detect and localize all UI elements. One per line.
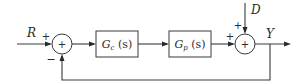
summing-junction-1-center-sign: + bbox=[58, 39, 66, 50]
feedback-arrowhead bbox=[60, 54, 65, 61]
summing-junction-1-reference-sign: + bbox=[42, 31, 50, 42]
summing-junction-2-plant-sign: + bbox=[226, 31, 234, 42]
output-label: Y bbox=[266, 27, 275, 41]
controller-block: Gc (s) bbox=[96, 31, 138, 57]
plant-output-arrowhead bbox=[228, 42, 235, 47]
reference-label: R bbox=[26, 26, 36, 40]
summing-junction-1-feedback-sign: − bbox=[46, 53, 55, 66]
block-diagram: R + + − Gc (s) Gp (s) + + + D Y bbox=[0, 0, 306, 84]
output-arrowhead bbox=[284, 42, 291, 47]
disturbance-label: D bbox=[250, 3, 261, 17]
reference-arrowhead bbox=[45, 42, 52, 47]
plant-block: Gp (s) bbox=[169, 31, 211, 57]
summing-junction-2-center-sign: + bbox=[241, 39, 249, 50]
control-arrowhead bbox=[162, 42, 169, 47]
error-arrowhead bbox=[89, 42, 96, 47]
controller-block-label: Gc (s) bbox=[102, 38, 132, 52]
summing-junction-1: + + − bbox=[42, 31, 72, 66]
summing-junction-2-disturbance-sign: + bbox=[234, 20, 242, 31]
plant-block-label: Gp (s) bbox=[174, 38, 205, 52]
disturbance-arrowhead bbox=[243, 27, 248, 34]
summing-junction-2: + + + bbox=[226, 20, 255, 54]
